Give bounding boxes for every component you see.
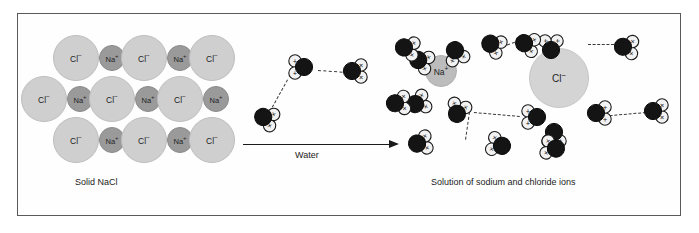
svg-text:×: ×: [660, 113, 664, 122]
water-molecule-na-shell: × ×: [439, 92, 477, 130]
water-molecule-cl-shell: + +: [584, 98, 614, 128]
water-molecule-bulk: × ×: [390, 31, 425, 66]
solution-panel: Na+Cl− × × × × × ×: [0, 0, 699, 233]
water-molecule-bulk: × ×: [382, 87, 415, 120]
svg-text:×: ×: [629, 49, 634, 58]
svg-text:+: +: [602, 103, 607, 112]
svg-text:×: ×: [660, 101, 664, 110]
water-molecule-bulk: × ×: [610, 31, 643, 64]
nacl-dissolution-figure: Cl−Na+Cl−Na+Cl−Cl−Na+Cl−Na+Cl−Na+Cl−Na+C…: [0, 0, 699, 233]
water-molecule-bulk: × ×: [403, 126, 438, 161]
svg-text:×: ×: [630, 37, 635, 46]
water-molecule-bulk: × ×: [641, 96, 671, 126]
svg-text:×: ×: [401, 92, 406, 101]
water-molecule-bulk: × ×: [481, 127, 518, 164]
svg-text:+: +: [602, 115, 607, 124]
caption-solution: Solution of sodium and chloride ions: [431, 177, 576, 187]
svg-text:+: +: [526, 119, 531, 128]
svg-text:+: +: [553, 39, 562, 44]
svg-text:×: ×: [402, 104, 407, 113]
ion-label: Cl−: [552, 72, 566, 84]
water-molecule-bulk: × ×: [536, 131, 571, 166]
water-molecule-na-shell: × ×: [473, 25, 513, 65]
hydrogen-bond: [474, 112, 520, 117]
svg-text:+: +: [526, 107, 531, 116]
